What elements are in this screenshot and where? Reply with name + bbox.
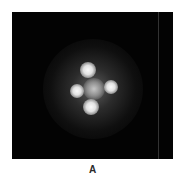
bottom-spot bbox=[83, 99, 99, 115]
center-spot bbox=[83, 78, 105, 100]
top-spot bbox=[80, 62, 96, 78]
diffraction-image bbox=[12, 12, 173, 159]
vertical-streak-artifact bbox=[158, 12, 159, 159]
right-spot bbox=[104, 80, 118, 94]
left-spot bbox=[70, 84, 84, 98]
panel-label: A bbox=[0, 164, 185, 176]
